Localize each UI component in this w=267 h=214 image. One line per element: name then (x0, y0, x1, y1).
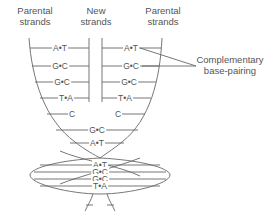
helix-left-curve (30, 158, 100, 194)
label-new-strands: New strands (76, 5, 116, 27)
helix-pair-4: T•A (92, 181, 108, 191)
base-pair-right-1: A•T (123, 43, 139, 53)
base-right-5: C (114, 109, 122, 119)
callout-line-1 (140, 48, 196, 66)
base-pair-right-2: G•C (122, 61, 140, 71)
base-pair-right-3: G•C (120, 77, 138, 87)
base-pair-left-3: G•C (53, 77, 71, 87)
helix-right-curve (100, 158, 170, 194)
base-left-5: C (68, 109, 76, 119)
center-pair-2: A•T (89, 138, 105, 148)
base-pair-left-1: A•T (52, 43, 68, 53)
base-pair-left-2: G•C (51, 61, 69, 71)
label-parental-right: Parental strands (140, 5, 186, 27)
dna-replication-diagram (0, 0, 267, 214)
base-pair-right-4: T•A (117, 93, 133, 103)
center-pair-1: G•C (88, 125, 106, 135)
label-parental-left: Parental strands (12, 5, 58, 27)
base-pair-left-4: T•A (58, 93, 74, 103)
label-complementary-base-pairing: Complementary base-pairing (196, 54, 264, 76)
